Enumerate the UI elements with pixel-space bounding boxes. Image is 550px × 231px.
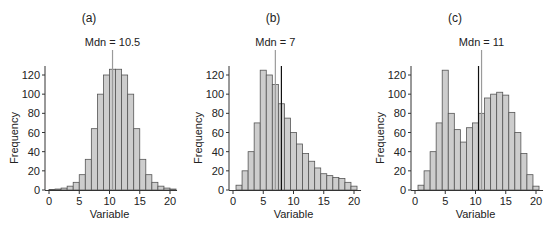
y-tick-label: 0 [34,184,40,196]
histogram-bar [351,186,357,190]
histogram-panel-c: (c)02040608010012005101520VariableFreque… [366,0,549,231]
histogram-bar [128,94,134,190]
y-tick-label: 60 [394,127,406,139]
histogram-bar [454,130,460,190]
histogram-bar [491,94,497,190]
histogram-bar [485,98,491,190]
y-tick-label: 120 [206,69,224,81]
y-tick-label: 60 [28,127,40,139]
histogram-bar [254,123,260,190]
y-tick-label: 80 [212,107,224,119]
histogram-bar [55,189,61,190]
x-tick-label: 5 [442,195,448,207]
x-tick-label: 10 [287,195,299,207]
histogram-bar [527,175,533,190]
histogram-bar [73,182,79,190]
histogram-bar [442,70,448,190]
y-tick-label: 40 [28,146,40,158]
histogram-bar [49,190,55,191]
y-tick-label: 100 [388,88,406,100]
y-tick-label: 60 [212,127,224,139]
y-axis-label: Frequency [374,112,386,164]
y-tick-label: 0 [400,184,406,196]
histogram-bar [103,75,109,190]
histogram-bar [424,171,430,190]
histogram-bar [321,174,327,190]
histogram-bar [61,188,67,190]
histogram-bar [67,186,73,190]
histogram-b-svg: (b)02040608010012005101520VariableFreque… [184,0,367,231]
histogram-bar [460,142,466,190]
histogram-bar [509,112,515,190]
histogram-bar [521,154,527,190]
histogram-bar [236,185,242,190]
histogram-bar [97,94,103,190]
x-axis-label: Variable [90,208,130,220]
panel-label: (c) [448,11,462,25]
x-tick-label: 15 [500,195,512,207]
histogram-bar [290,133,296,191]
y-axis-label: Frequency [192,112,204,164]
histogram-bar [158,186,164,190]
y-tick-label: 80 [394,107,406,119]
histogram-bar [430,152,436,190]
x-tick-label: 0 [230,195,236,207]
x-axis-label: Variable [274,208,314,220]
histogram-bar [122,75,128,190]
panel-label: (a) [82,11,97,25]
histogram-bar [309,161,315,190]
histogram-bar [497,92,503,190]
histogram-c-svg: (c)02040608010012005101520VariableFreque… [366,0,549,231]
histogram-a-svg: (a)02040608010012005101520VariableFreque… [0,0,183,231]
histogram-bar [333,178,339,190]
histogram-bar [85,159,91,190]
histogram-bar [260,70,266,190]
median-label: Mdn = 7 [255,36,295,48]
histogram-bar [533,186,539,190]
x-tick-label: 0 [412,195,418,207]
histogram-bar [515,133,521,191]
histogram-bar [418,185,424,190]
x-tick-label: 5 [76,195,82,207]
x-tick-label: 20 [348,195,360,207]
histogram-bar [170,189,176,190]
y-tick-label: 100 [22,88,40,100]
y-tick-label: 20 [28,165,40,177]
x-tick-label: 15 [134,195,146,207]
histogram-panel-b: (b)02040608010012005101520VariableFreque… [184,0,367,231]
histogram-bar [152,182,158,190]
histogram-bar [466,128,472,190]
histogram-bar [146,175,152,190]
histogram-bar [79,175,85,190]
histogram-bar [164,188,170,190]
y-tick-label: 120 [22,69,40,81]
histogram-bar [91,129,97,190]
x-tick-label: 10 [103,195,115,207]
histogram-bar [242,171,248,190]
y-axis-label: Frequency [8,112,20,164]
histogram-panel-a: (a)02040608010012005101520VariableFreque… [0,0,183,231]
y-tick-label: 20 [212,165,224,177]
y-tick-label: 20 [394,165,406,177]
histogram-bar [140,159,146,190]
histogram-bar [284,118,290,190]
y-tick-label: 40 [212,146,224,158]
x-tick-label: 5 [260,195,266,207]
y-tick-label: 40 [394,146,406,158]
histogram-bar [315,168,321,190]
histogram-bar [248,152,254,190]
x-axis-label: Variable [456,208,496,220]
median-label: Mdn = 11 [459,36,504,48]
x-tick-label: 20 [530,195,542,207]
histogram-bar [339,179,345,191]
y-tick-label: 120 [388,69,406,81]
y-tick-label: 80 [28,107,40,119]
panel-label: (b) [266,11,281,25]
histogram-bar [297,144,303,190]
median-label: Mdn = 10.5 [85,36,140,48]
x-tick-label: 10 [469,195,481,207]
x-tick-label: 20 [164,195,176,207]
histogram-bar [503,95,509,190]
x-tick-label: 15 [318,195,330,207]
histogram-bar [116,69,122,190]
